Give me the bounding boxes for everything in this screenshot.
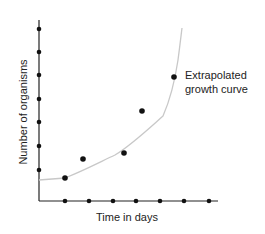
y-axis-label: Number of organisms	[17, 59, 30, 164]
x-axis-label: Time in days	[96, 211, 158, 224]
y-tick-marker	[37, 27, 42, 32]
annotation-line-2: growth curve	[185, 82, 248, 96]
annotation-line-1: Extrapolated	[185, 68, 248, 82]
y-tick-marker	[37, 168, 42, 173]
data-point	[121, 150, 127, 156]
x-tick-marker	[182, 199, 187, 204]
x-tick-marker	[63, 199, 68, 204]
data-point	[62, 175, 68, 181]
extrapolated-growth-curve	[39, 28, 182, 180]
y-tick-marker	[37, 50, 42, 55]
x-tick-marker	[158, 199, 163, 204]
x-tick-marker	[111, 199, 116, 204]
y-tick-marker	[37, 73, 42, 78]
curve-annotation: Extrapolated growth curve	[185, 68, 248, 96]
x-tick-marker	[87, 199, 92, 204]
x-tick-marker	[207, 199, 212, 204]
y-tick-marker	[37, 144, 42, 149]
growth-chart	[0, 0, 265, 234]
data-point	[80, 156, 86, 162]
y-tick-marker	[37, 97, 42, 102]
data-point	[171, 74, 177, 80]
data-points	[62, 74, 177, 181]
data-point	[139, 108, 145, 114]
x-tick-marker	[134, 199, 139, 204]
y-tick-marker	[37, 120, 42, 125]
